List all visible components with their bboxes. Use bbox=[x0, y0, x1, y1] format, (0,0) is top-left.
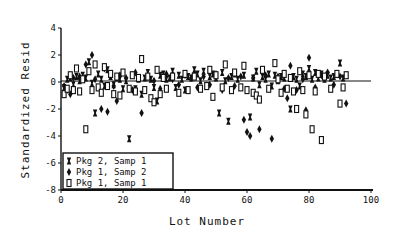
x-axis-title: Lot Number bbox=[169, 215, 245, 228]
data-point bbox=[310, 126, 314, 133]
data-point bbox=[199, 85, 203, 92]
data-point bbox=[84, 126, 88, 133]
data-point bbox=[93, 110, 97, 117]
data-point bbox=[313, 88, 317, 95]
data-point bbox=[192, 73, 196, 80]
data-point bbox=[270, 135, 274, 143]
data-point bbox=[230, 87, 234, 94]
y-ticks: 420-2-4-6-8 bbox=[45, 23, 61, 195]
data-point bbox=[307, 72, 311, 79]
data-point bbox=[288, 62, 292, 70]
data-point bbox=[211, 93, 215, 100]
data-point bbox=[140, 56, 144, 63]
data-point bbox=[158, 91, 162, 98]
y-tick-label: -8 bbox=[45, 185, 56, 195]
y-tick-label: 4 bbox=[51, 23, 56, 33]
x-tick-label: 80 bbox=[304, 195, 315, 205]
data-point bbox=[248, 132, 252, 140]
data-point bbox=[276, 76, 280, 83]
data-point bbox=[75, 65, 79, 72]
data-point bbox=[292, 88, 296, 95]
data-point bbox=[220, 69, 224, 76]
residual-scatter-chart: 420-2-4-6-8 020406080100 Standardized Re… bbox=[0, 0, 398, 232]
data-point bbox=[285, 85, 289, 92]
data-point bbox=[177, 72, 181, 79]
data-point bbox=[109, 70, 113, 77]
data-point bbox=[242, 62, 246, 69]
data-point bbox=[279, 89, 283, 96]
data-point bbox=[282, 70, 286, 77]
data-point bbox=[220, 84, 224, 91]
data-point bbox=[192, 66, 196, 73]
data-point bbox=[344, 100, 348, 108]
data-point bbox=[99, 76, 103, 83]
y-tick-label: -4 bbox=[45, 131, 56, 141]
data-point bbox=[329, 85, 333, 92]
y-tick-label: -2 bbox=[45, 104, 56, 114]
data-point bbox=[226, 118, 230, 125]
data-point bbox=[152, 99, 156, 106]
data-point bbox=[242, 116, 246, 124]
x-tick-label: 60 bbox=[242, 195, 253, 205]
data-point bbox=[112, 91, 116, 98]
data-point bbox=[71, 87, 75, 94]
data-point bbox=[118, 92, 122, 99]
data-point bbox=[112, 82, 116, 90]
data-point bbox=[254, 68, 258, 75]
data-point bbox=[214, 72, 218, 79]
x-tick-label: 0 bbox=[58, 195, 63, 205]
data-point bbox=[164, 85, 168, 92]
data-point bbox=[127, 135, 131, 142]
data-point bbox=[87, 68, 91, 75]
data-point bbox=[267, 85, 271, 92]
data-point bbox=[155, 66, 159, 73]
data-point bbox=[245, 128, 249, 136]
data-point bbox=[137, 74, 141, 81]
data-point bbox=[323, 73, 327, 80]
x-tick-label: 40 bbox=[180, 195, 191, 205]
data-point bbox=[257, 125, 261, 133]
data-point bbox=[146, 73, 150, 80]
data-point bbox=[152, 84, 156, 91]
data-point bbox=[115, 73, 119, 80]
data-point bbox=[261, 66, 265, 73]
data-point bbox=[139, 109, 143, 117]
data-point bbox=[99, 89, 103, 96]
y-axis-title: Standardized Resid bbox=[19, 41, 32, 178]
data-point bbox=[177, 89, 181, 96]
legend: Pkg 2, Samp 1Pkg 1, Samp 2Pkg 1, Samp 1 bbox=[63, 153, 173, 189]
x-ticks: 020406080100 bbox=[58, 190, 379, 205]
data-point bbox=[152, 77, 156, 85]
data-point bbox=[304, 111, 308, 118]
data-point bbox=[217, 110, 221, 117]
data-point bbox=[273, 60, 277, 67]
x-tick-label: 20 bbox=[118, 195, 129, 205]
data-point bbox=[106, 83, 110, 90]
legend-label: Pkg 1, Samp 2 bbox=[76, 167, 146, 177]
legend-label: Pkg 1, Samp 1 bbox=[76, 178, 146, 188]
data-point bbox=[127, 85, 131, 92]
data-point bbox=[319, 137, 323, 144]
data-point bbox=[295, 106, 299, 113]
legend-marker bbox=[67, 180, 71, 187]
data-point bbox=[99, 105, 103, 113]
data-point bbox=[90, 87, 94, 94]
data-point bbox=[338, 100, 342, 107]
data-point bbox=[105, 108, 109, 116]
data-point bbox=[239, 73, 243, 81]
data-point bbox=[208, 66, 212, 73]
data-point bbox=[338, 60, 342, 67]
data-point bbox=[288, 74, 292, 81]
data-point bbox=[102, 64, 106, 71]
data-point bbox=[93, 61, 97, 68]
data-point bbox=[223, 61, 227, 68]
data-point bbox=[341, 84, 345, 91]
data-point bbox=[133, 88, 137, 95]
data-point bbox=[183, 70, 187, 77]
data-point bbox=[257, 81, 261, 88]
data-point bbox=[285, 94, 289, 102]
data-point bbox=[335, 70, 339, 77]
data-point bbox=[344, 72, 348, 79]
x-tick-label: 100 bbox=[363, 195, 379, 205]
data-point bbox=[288, 106, 292, 113]
